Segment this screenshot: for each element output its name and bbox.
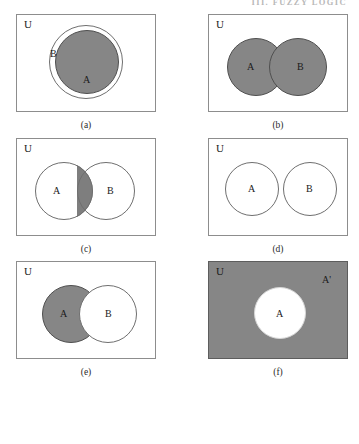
venn-box-a: U B A [16,14,156,112]
set-label-a: A [247,62,254,72]
venn-box-d: U A B [208,138,348,236]
figure-panel-e: U A B (e) [16,261,156,378]
set-label-b: B [306,184,313,194]
set-label-b: B [297,62,304,72]
universe-label: U [216,266,224,277]
panel-caption-e: (e) [16,368,156,378]
figure-panel-f: U A' A (f) [208,261,348,378]
universe-label: U [24,19,32,30]
panel-caption-f: (f) [208,368,348,378]
circle-b [77,162,135,220]
venn-box-c: U A B [16,138,156,236]
set-label-a: A [60,309,67,319]
set-label-b: B [105,309,112,319]
panel-caption-d: (d) [208,245,348,255]
set-label-b: B [50,49,57,59]
set-label-a: A [248,184,255,194]
set-label-a: A [53,186,60,196]
figure-panel-a: U B A (a) [16,14,156,131]
set-label-b: B [107,186,114,196]
figure-panel-c: U A B (c) [16,138,156,255]
set-label-a: A [83,75,90,85]
running-head: III. FUZZY LOGIC [0,0,359,5]
panel-caption-c: (c) [16,245,156,255]
panel-caption-a: (a) [16,121,156,131]
universe-label: U [216,19,224,30]
universe-label: U [24,143,32,154]
figure-panel-b: U A B (b) [208,14,348,131]
universe-label: U [216,143,224,154]
figure-row-1: U B A (a) U A B (b) [0,14,359,131]
venn-figure-grid: U B A (a) U A B (b) U [0,14,359,385]
universe-label: U [24,266,32,277]
venn-box-b: U A B [208,14,348,112]
panel-caption-b: (b) [208,121,348,131]
complement-label: A' [322,275,331,285]
venn-box-f: U A' A [208,261,348,359]
figure-panel-d: U A B (d) [208,138,348,255]
set-label-a: A [276,309,283,319]
figure-row-2: U A B (c) U A B (d) [0,138,359,255]
venn-box-e: U A B [16,261,156,359]
figure-row-3: U A B (e) U A' A (f) [0,261,359,378]
